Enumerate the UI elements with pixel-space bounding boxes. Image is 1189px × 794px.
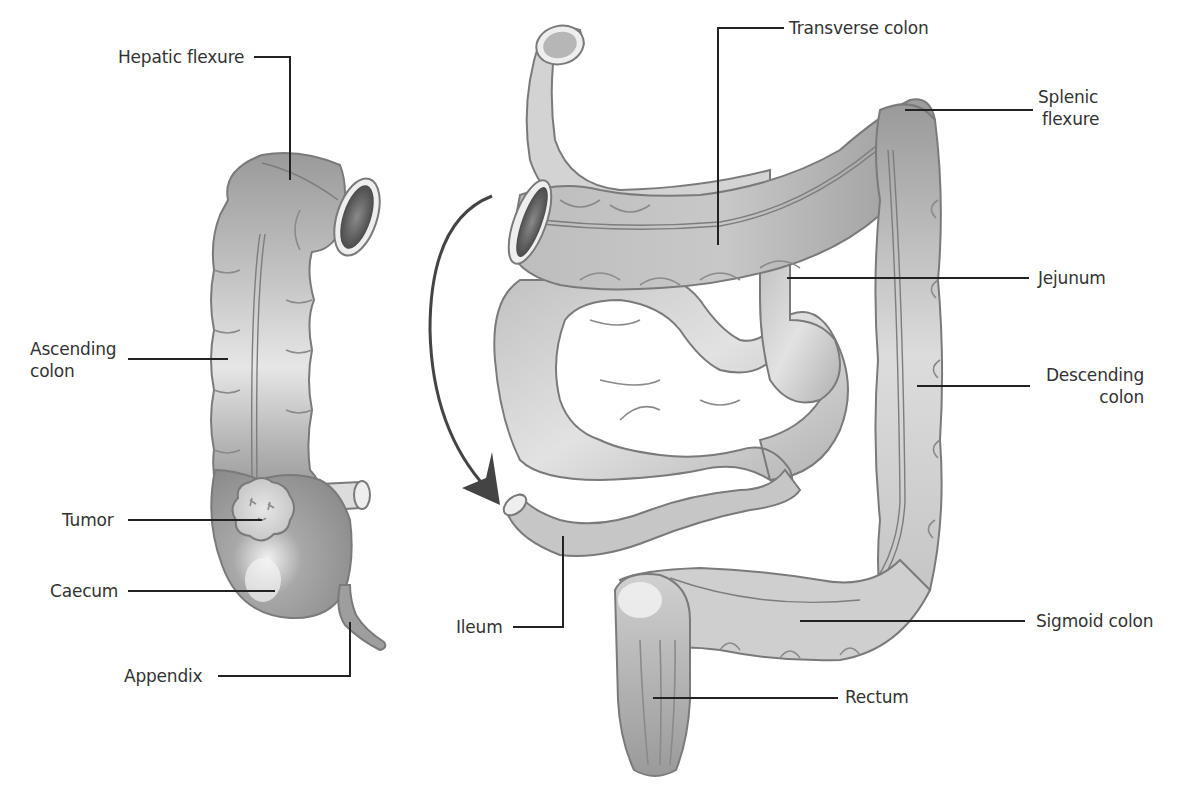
ascending-colon-shape <box>211 153 345 510</box>
label-splenic-flexure: Splenic flexure <box>1038 86 1099 130</box>
left-colon-group <box>211 153 388 650</box>
tumor-shape <box>232 478 294 541</box>
right-intestine-group <box>430 20 942 776</box>
transverse-colon-shape <box>510 99 935 289</box>
label-splenic-flexure-line2: flexure <box>1038 108 1099 130</box>
label-descending-colon-line2: colon <box>1038 386 1144 408</box>
label-descending-colon-line1: Descending <box>1038 364 1144 386</box>
arrow-head-icon <box>462 452 500 505</box>
label-appendix: Appendix <box>124 665 202 687</box>
anastomosis-arrow <box>430 196 492 490</box>
label-splenic-flexure-line1: Splenic <box>1038 86 1099 108</box>
ileum-shape <box>508 470 800 556</box>
label-sigmoid-colon: Sigmoid colon <box>1036 610 1153 632</box>
label-transverse-colon: Transverse colon <box>789 17 929 39</box>
label-ascending-colon: Ascending colon <box>30 338 116 382</box>
label-descending-colon: Descending colon <box>1038 364 1144 408</box>
label-caecum: Caecum <box>50 580 118 602</box>
label-hepatic-flexure: Hepatic flexure <box>118 46 244 68</box>
label-jejunum: Jejunum <box>1038 267 1106 289</box>
descending-colon-shape <box>875 104 942 608</box>
label-ileum: Ileum <box>456 616 503 638</box>
label-tumor: Tumor <box>62 509 114 531</box>
label-ascending-colon-line2: colon <box>30 360 116 382</box>
appendix-shape <box>338 585 385 650</box>
label-ascending-colon-line1: Ascending <box>30 338 116 360</box>
label-rectum: Rectum <box>845 686 909 708</box>
